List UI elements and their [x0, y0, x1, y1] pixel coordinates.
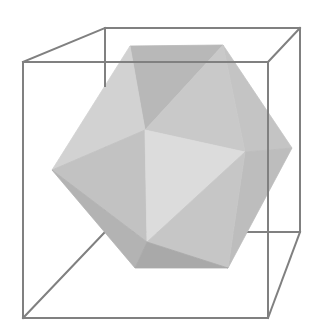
icosahedron-solid	[52, 45, 292, 268]
cube-edge-bottom-right-depth	[268, 232, 300, 318]
cube-edge-top-right-depth	[268, 28, 300, 62]
cube-edge-bottom-left-depth	[23, 232, 105, 318]
cube-edge-top-left-depth	[23, 28, 105, 62]
figure-canvas: Icosahedron inscribed in a cube	[0, 0, 315, 329]
icosahedron-in-cube-diagram	[0, 0, 315, 329]
